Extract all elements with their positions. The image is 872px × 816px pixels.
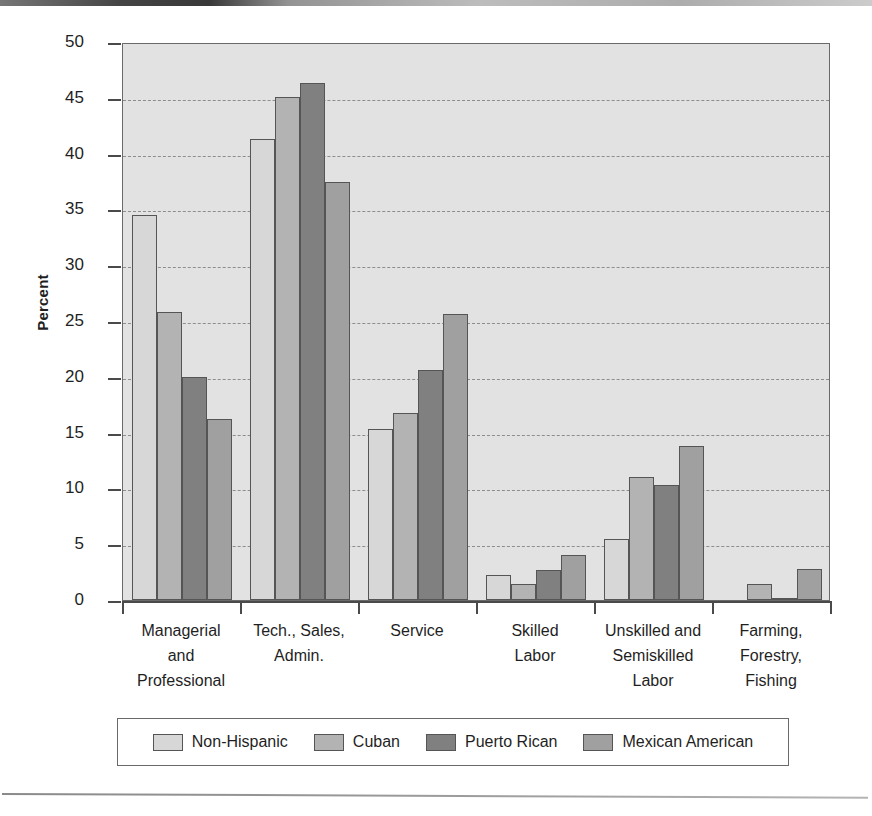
- legend-label: Non-Hispanic: [192, 733, 288, 751]
- y-axis-tick: [108, 378, 121, 380]
- legend-item[interactable]: Puerto Rican: [426, 733, 558, 751]
- y-axis-tick-label: 25: [24, 311, 84, 331]
- x-axis-category-line: Fishing: [702, 668, 840, 693]
- legend-label: Cuban: [353, 733, 400, 751]
- plot-inner: [123, 44, 829, 600]
- y-axis-tick: [108, 545, 121, 547]
- y-axis-tick-label: 10: [24, 478, 84, 498]
- bar: [418, 370, 443, 600]
- y-axis-tick-label: 30: [24, 255, 84, 275]
- x-axis-tick: [594, 601, 596, 614]
- bar: [486, 575, 511, 600]
- legend-item[interactable]: Cuban: [314, 733, 400, 751]
- y-axis-tick: [108, 99, 121, 101]
- y-axis-tick-label: 50: [24, 32, 84, 52]
- legend-label: Mexican American: [622, 733, 753, 751]
- legend-label: Puerto Rican: [465, 733, 558, 751]
- y-axis-tick: [108, 210, 121, 212]
- x-axis-tick: [830, 601, 832, 614]
- legend-swatch-icon: [426, 734, 456, 751]
- bar: [511, 584, 536, 600]
- y-axis-tick-label: 15: [24, 423, 84, 443]
- y-axis-tick-label: 45: [24, 88, 84, 108]
- bar: [368, 429, 393, 600]
- x-axis-tick: [712, 601, 714, 614]
- page-bottom-rule: [2, 793, 868, 799]
- y-axis-tick-label: 20: [24, 367, 84, 387]
- x-axis-category-line: Professional: [112, 668, 250, 693]
- bar: [561, 555, 586, 600]
- legend-item[interactable]: Mexican American: [583, 733, 753, 751]
- x-axis-tick: [122, 601, 124, 614]
- bar: [393, 413, 418, 600]
- gridline: [123, 379, 829, 380]
- gridline: [123, 100, 829, 101]
- bar: [629, 477, 654, 600]
- y-axis-tick: [108, 43, 121, 45]
- y-axis-tick: [108, 434, 121, 436]
- y-axis-tick-label: 5: [24, 534, 84, 554]
- bar: [604, 539, 629, 600]
- y-axis-tick-label: 35: [24, 199, 84, 219]
- legend-swatch-icon: [583, 734, 613, 751]
- gridline: [123, 323, 829, 324]
- bar: [182, 377, 207, 600]
- legend-swatch-icon: [314, 734, 344, 751]
- y-axis-tick: [108, 322, 121, 324]
- chart-legend: Non-HispanicCubanPuerto RicanMexican Ame…: [117, 718, 789, 766]
- x-axis-tick: [358, 601, 360, 614]
- bar: [654, 485, 679, 600]
- x-axis-category-line: Forestry,: [702, 643, 840, 668]
- x-axis-tick: [476, 601, 478, 614]
- bar: [157, 312, 182, 600]
- gridline: [123, 267, 829, 268]
- y-axis-tick-label: 0: [24, 590, 84, 610]
- bar: [325, 182, 350, 601]
- bar: [536, 570, 561, 600]
- legend-swatch-icon: [153, 734, 183, 751]
- gridline: [123, 156, 829, 157]
- x-axis-tick: [240, 601, 242, 614]
- plot-area: [122, 43, 830, 601]
- x-axis-category-label: Farming,Forestry,Fishing: [702, 618, 840, 693]
- bar: [797, 569, 822, 600]
- y-axis-tick: [108, 601, 121, 603]
- bar: [207, 419, 232, 600]
- y-axis-tick-label: 40: [24, 144, 84, 164]
- x-axis-category-line: Admin.: [230, 643, 368, 668]
- y-axis-tick: [108, 266, 121, 268]
- gridline: [123, 211, 829, 212]
- bar-chart-figure: Percent 05101520253035404550 Manageriala…: [0, 6, 872, 786]
- bar: [250, 139, 275, 600]
- y-axis-tick: [108, 155, 121, 157]
- bar: [443, 314, 468, 600]
- bar: [300, 83, 325, 600]
- y-axis-tick: [108, 489, 121, 491]
- bar: [275, 97, 300, 600]
- bar: [132, 215, 157, 600]
- bar: [679, 446, 704, 600]
- bar: [772, 598, 797, 600]
- x-axis-category-line: Farming,: [702, 618, 840, 643]
- bar: [747, 584, 772, 600]
- legend-item[interactable]: Non-Hispanic: [153, 733, 288, 751]
